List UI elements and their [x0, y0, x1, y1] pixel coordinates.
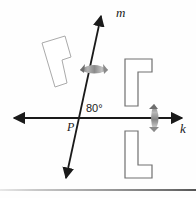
page-bottom-edge — [0, 189, 196, 191]
line-m — [66, 16, 101, 178]
rotated-l-shape-left — [42, 36, 71, 87]
reflection-arrow-across-line-m — [80, 64, 108, 74]
point-p-label: P — [66, 120, 75, 134]
line-m-label: m — [116, 5, 125, 20]
l-shape-lower-right — [125, 131, 152, 178]
figure-canvas: m k P 80° — [0, 0, 196, 198]
geometry-figure: m k P 80° — [0, 0, 196, 198]
line-k-label: k — [180, 121, 186, 136]
l-shape-upper-right — [125, 59, 152, 106]
angle-measure-label: 80° — [86, 102, 103, 114]
